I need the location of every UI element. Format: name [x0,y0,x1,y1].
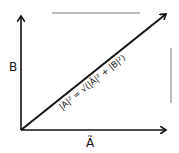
resultant-vector-arrow [21,14,166,130]
b-axis-label: B [9,60,17,74]
vector-diagram: B Ã |A|² = √(|Ã|² + |B|²) [0,0,179,153]
a-tilde-axis-label: Ã [86,135,95,150]
magnitude-equation: |A|² = √(|Ã|² + |B|²) [57,53,127,112]
